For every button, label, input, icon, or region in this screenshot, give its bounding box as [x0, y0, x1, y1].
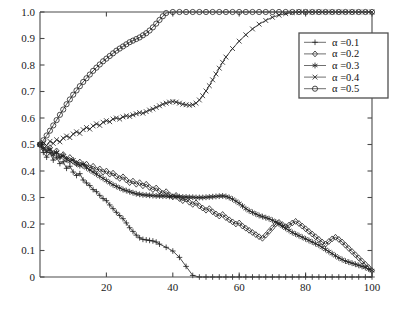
legend-item-label: α =0.4	[332, 72, 360, 83]
chart-figure: 00.10.20.30.40.50.60.70.80.91.0 20406080…	[0, 0, 400, 316]
legend-item-label: α =0.2	[332, 48, 359, 59]
x-tick-label: 40	[167, 281, 179, 293]
y-tick-label: 0.2	[21, 218, 35, 230]
y-tick-label: 0.5	[21, 138, 35, 150]
x-tick-label: 80	[300, 281, 312, 293]
y-tick-label: 0.9	[21, 32, 35, 44]
series-markers	[38, 142, 375, 274]
y-tick-label: 0.3	[21, 191, 35, 203]
legend-item-label: α =0.1	[332, 37, 359, 48]
y-tick-label: 0.4	[21, 165, 35, 177]
legend-item-label: α =0.5	[332, 83, 359, 94]
y-tick-label: 1.0	[21, 6, 35, 18]
y-tick-label: 0.7	[21, 85, 35, 97]
y-tick-label: 0.6	[21, 112, 35, 124]
line-chart: 00.10.20.30.40.50.60.70.80.91.0 20406080…	[0, 0, 400, 316]
y-tick-label: 0.1	[21, 244, 35, 256]
legend-item-label: α =0.3	[332, 60, 359, 71]
y-tick-label: 0.8	[21, 59, 35, 71]
series-2	[38, 142, 375, 274]
x-tick-label: 100	[364, 281, 381, 293]
x-tick-label: 60	[234, 281, 246, 293]
x-tick-label: 20	[101, 281, 113, 293]
y-tick-label: 0	[30, 271, 36, 283]
legend: α =0.1α =0.2α =0.3α =0.4α =0.5	[299, 33, 388, 98]
